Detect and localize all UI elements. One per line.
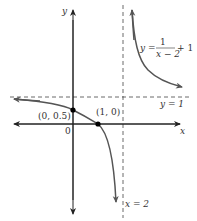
y-axis-label: y — [61, 6, 68, 16]
point-y-intercept — [70, 107, 75, 112]
svg-text:1: 1 — [160, 37, 166, 47]
x-axis-label: x — [180, 126, 185, 136]
point-x-intercept — [95, 121, 100, 126]
svg-text:y =: y = — [139, 43, 156, 53]
point-label-y-intercept: (0, 0.5) — [38, 111, 71, 121]
function-label: y = 1 x − 2 + 1 — [139, 37, 193, 59]
point-label-x-intercept: (1, 0) — [96, 107, 120, 117]
horizontal-asymptote-label: y = 1 — [159, 99, 184, 109]
function-graph: y x 0 (0, 0.5) (1, 0) y = 1 x = 2 y = 1 … — [0, 0, 197, 221]
vertical-asymptote-label: x = 2 — [125, 199, 149, 209]
svg-text:+ 1: + 1 — [177, 43, 193, 53]
origin-label: 0 — [65, 126, 71, 136]
